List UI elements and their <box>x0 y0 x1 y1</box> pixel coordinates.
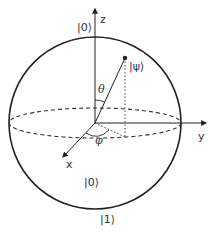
bloch-sphere-diagram: |0⟩ z |ψ⟩ θ φ y x |0⟩ |1⟩ <box>0 0 215 232</box>
top-state-label: |0⟩ <box>77 21 92 34</box>
phi-label: φ <box>95 134 103 147</box>
y-axis-label: y <box>198 130 205 143</box>
inner-state-label: |0⟩ <box>84 176 99 189</box>
theta-label: θ <box>98 83 105 96</box>
x-axis-label: x <box>66 158 73 171</box>
bottom-state-label: |1⟩ <box>100 213 115 226</box>
theta-arc <box>95 100 105 102</box>
bloch-sphere-svg: |0⟩ z |ψ⟩ θ φ y x |0⟩ |1⟩ <box>0 0 215 232</box>
x-axis <box>63 123 95 157</box>
z-axis-label: z <box>100 13 106 26</box>
psi-state-label: |ψ⟩ <box>129 60 144 73</box>
